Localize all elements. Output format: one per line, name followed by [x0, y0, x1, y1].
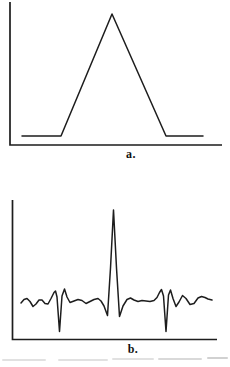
- remnant-dash: [2, 359, 46, 361]
- remnant-dash: [58, 359, 108, 361]
- panel-a-caption: a.: [116, 148, 146, 160]
- panel-b-curve: [21, 210, 212, 332]
- remnant-dash: [112, 358, 154, 360]
- panel-b-caption: b.: [118, 343, 148, 355]
- remnant-dash: [158, 358, 202, 360]
- figure-canvas: [0, 0, 230, 367]
- scanned-figure-page: { "page": { "width": 230, "height": 367,…: [0, 0, 230, 367]
- panel-a-curve: [22, 14, 203, 136]
- remnant-dash: [207, 357, 228, 359]
